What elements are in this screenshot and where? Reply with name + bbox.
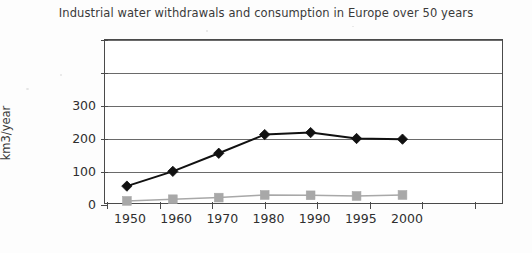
x-axis-tick-label: 1950: [114, 211, 146, 226]
x-axis-tick-label: 1960: [160, 211, 192, 226]
y-axis-tick-label: 0: [56, 197, 96, 212]
plot-area: [104, 39, 503, 204]
scan-speck: [206, 30, 208, 32]
data-series-layer: [105, 40, 502, 204]
data-point-marker: [122, 181, 132, 191]
scan-speck: [60, 74, 62, 76]
chart-figure: Industrial water withdrawals and consump…: [0, 0, 532, 253]
x-axis-tick-label: 1980: [253, 211, 285, 226]
x-axis-tick-label: 2000: [391, 211, 423, 226]
data-point-marker: [306, 191, 315, 200]
data-point-marker: [398, 191, 407, 200]
data-point-marker: [168, 195, 177, 204]
x-axis-tick-label: 1990: [299, 211, 331, 226]
data-point-marker: [352, 192, 361, 201]
scan-speck: [352, 26, 354, 27]
series-consumption: [123, 191, 407, 206]
data-point-marker: [260, 191, 269, 200]
data-point-marker: [214, 193, 223, 202]
x-axis-tick-label: 1995: [345, 211, 377, 226]
y-axis-title-line-2: km3/year: [0, 106, 13, 161]
series-line: [127, 133, 403, 187]
data-point-marker: [397, 134, 407, 144]
data-point-marker: [214, 148, 224, 158]
data-point-marker: [260, 129, 270, 139]
y-axis-tick-label: 200: [56, 131, 96, 146]
chart-title: Industrial water withdrawals and consump…: [0, 6, 532, 20]
y-axis-tick-label: 100: [56, 164, 96, 179]
data-point-marker: [123, 197, 132, 206]
data-point-marker: [168, 166, 178, 176]
y-axis-tick-label: 300: [56, 98, 96, 113]
series-withdrawals: [122, 127, 408, 191]
y-axis-title: Industrial water use km3/year: [0, 48, 22, 218]
data-point-marker: [351, 133, 361, 143]
x-axis-tick-label: 1970: [206, 211, 238, 226]
scan-speck: [26, 88, 29, 90]
data-point-marker: [305, 127, 315, 137]
